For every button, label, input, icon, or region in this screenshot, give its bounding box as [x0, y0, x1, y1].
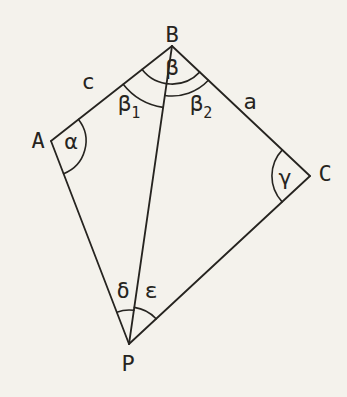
vertex-label-B: B [165, 22, 178, 47]
angle-label-delta: δ [116, 278, 129, 303]
angle-label-beta2: β2 [190, 91, 212, 122]
vertex-label-P: P [121, 351, 134, 376]
angle-label-beta: β [165, 55, 178, 80]
angle-label-beta1: β1 [118, 91, 140, 122]
angle-delta-arc [117, 310, 134, 312]
vertex-label-A: A [31, 128, 44, 153]
angle-label-alpha: α [64, 129, 77, 154]
angle-label-epsilon: ε [144, 278, 157, 303]
vertex-label-C: C [318, 161, 331, 186]
side-label-a: a [243, 89, 256, 114]
angle-epsilon-arc [134, 307, 156, 318]
side-c-line-AB [51, 46, 172, 141]
angle-label-gamma: γ [278, 165, 291, 190]
figure-canvas: B A C P c a α β β1 β2 γ δ ε [0, 0, 347, 397]
side-line-AP [51, 141, 129, 344]
side-label-c: c [81, 69, 94, 94]
geometry-figure: B A C P c a α β β1 β2 γ δ ε [0, 0, 347, 397]
